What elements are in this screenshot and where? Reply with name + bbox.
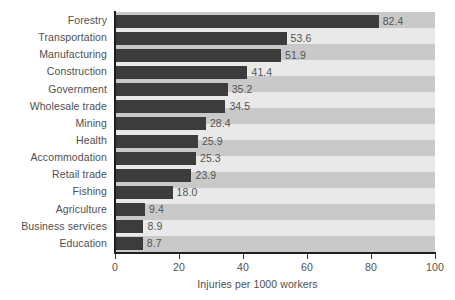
bar-value-label: 8.7 (143, 237, 162, 250)
x-tick (243, 254, 244, 259)
x-tick-label: 100 (426, 261, 444, 273)
x-tick (307, 254, 308, 259)
bar-value-label: 8.9 (143, 220, 162, 233)
bar-value-label: 34.5 (225, 100, 250, 113)
category-label: Fishing (72, 183, 107, 200)
bar (115, 169, 191, 182)
category-axis: ForestryTransportationManufacturingConst… (0, 12, 111, 252)
category-label: Government (48, 81, 107, 98)
x-tick-label: 40 (237, 261, 249, 273)
bar-value-label: 28.4 (206, 117, 231, 130)
x-tick (371, 254, 372, 259)
bar (115, 32, 287, 45)
x-axis-title: Injuries per 1000 workers (0, 278, 455, 290)
bar (115, 100, 225, 113)
bar-value-label: 53.6 (287, 32, 312, 45)
category-label: Education (59, 235, 107, 252)
bar (115, 66, 247, 79)
bar (115, 237, 143, 250)
x-tick-label: 0 (112, 261, 118, 273)
bar (115, 15, 379, 28)
bar-value-label: 9.4 (145, 203, 164, 216)
x-tick-label: 80 (365, 261, 377, 273)
category-label: Agriculture (56, 201, 107, 218)
bar (115, 152, 196, 165)
bar (115, 117, 206, 130)
bar-value-label: 23.9 (191, 169, 216, 182)
category-label: Mining (75, 115, 107, 132)
row-band (115, 220, 435, 237)
bar-value-label: 82.4 (379, 15, 404, 28)
x-axis-title-text: Injuries per 1000 workers (197, 278, 317, 290)
bar-value-label: 18.0 (173, 186, 198, 199)
category-label: Manufacturing (39, 46, 107, 63)
category-label: Transportation (38, 29, 107, 46)
y-axis-line (114, 11, 116, 254)
bar-value-label: 25.9 (198, 135, 223, 148)
bar-value-label: 51.9 (281, 49, 306, 62)
x-axis-line (114, 252, 436, 254)
bar (115, 203, 145, 216)
bar-value-label: 25.3 (196, 152, 221, 165)
bar (115, 186, 173, 199)
bar (115, 220, 143, 233)
category-label: Forestry (68, 12, 107, 29)
bar (115, 135, 198, 148)
category-label: Accommodation (30, 149, 107, 166)
category-label: Retail trade (52, 166, 107, 183)
x-tick (115, 254, 116, 259)
plot-area: 82.453.651.941.435.234.528.425.925.323.9… (115, 12, 435, 252)
category-label: Business services (21, 218, 107, 235)
bar-value-label: 35.2 (228, 83, 253, 96)
category-label: Health (76, 132, 107, 149)
x-tick-label: 20 (173, 261, 185, 273)
x-tick (435, 254, 436, 259)
x-tick-label: 60 (301, 261, 313, 273)
row-band (115, 236, 435, 252)
bar (115, 49, 281, 62)
bar (115, 83, 228, 96)
category-label: Construction (47, 63, 107, 80)
bar-value-label: 41.4 (247, 66, 272, 79)
category-label: Wholesale trade (30, 98, 107, 115)
x-tick (179, 254, 180, 259)
bar-chart: ForestryTransportationManufacturingConst… (0, 0, 455, 300)
